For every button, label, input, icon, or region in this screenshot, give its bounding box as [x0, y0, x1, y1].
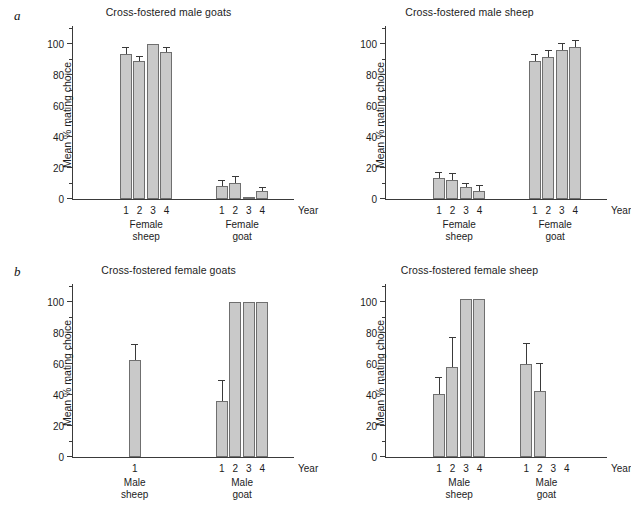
y-tick-major	[67, 43, 72, 44]
x-axis-line	[72, 199, 294, 200]
y-tick-major	[67, 136, 72, 137]
error-bar	[535, 55, 536, 61]
chart-title: Cross-fostered male sheep	[313, 6, 626, 18]
x-group-label-line: Female	[538, 219, 571, 231]
y-tick-minor	[69, 410, 72, 411]
y-tick-label: 20	[53, 163, 64, 174]
x-axis-title: Year	[611, 205, 631, 216]
y-tick-major	[380, 363, 385, 364]
y-tick-label: 60	[53, 359, 64, 370]
error-bar	[479, 186, 480, 191]
y-tick-label: 40	[366, 390, 377, 401]
y-tick-label: 100	[47, 39, 64, 50]
x-group-label: Femalesheep	[130, 219, 163, 243]
plot-area: Mean % mating choice0204060801001234Male…	[385, 288, 603, 458]
x-tick-label: 4	[164, 205, 170, 216]
y-tick-minor	[382, 348, 385, 349]
x-tick-label: 1	[132, 463, 138, 474]
y-tick-label: 100	[47, 297, 64, 308]
y-tick-minor	[382, 59, 385, 60]
error-bar	[562, 44, 563, 49]
x-group-label: Malegoat	[231, 477, 253, 501]
y-tick-major	[380, 456, 385, 457]
y-tick-label: 0	[371, 452, 377, 463]
bar	[529, 61, 541, 199]
x-group-label-line: Male	[536, 477, 558, 489]
y-tick-major	[380, 136, 385, 137]
error-bar	[526, 344, 527, 364]
x-axis-line	[72, 457, 294, 458]
y-tick-major	[380, 332, 385, 333]
bar	[256, 302, 268, 457]
error-bar-cap	[218, 180, 225, 181]
y-tick-minor	[69, 121, 72, 122]
x-tick-label: 2	[233, 205, 239, 216]
y-tick-label: 60	[53, 101, 64, 112]
y-tick-major	[380, 425, 385, 426]
y-tick-minor	[382, 90, 385, 91]
x-group-label-line: Female	[443, 219, 476, 231]
chart-title: Cross-fostered female goats	[0, 264, 313, 276]
bar	[216, 401, 228, 457]
x-tick-label: 2	[546, 205, 552, 216]
x-tick-label: 4	[477, 463, 483, 474]
x-group-label-line: sheep	[443, 231, 476, 243]
bar	[446, 180, 458, 199]
x-tick-label: 4	[573, 205, 579, 216]
y-tick-major	[380, 167, 385, 168]
bar	[129, 360, 141, 457]
y-tick-major	[380, 301, 385, 302]
bar	[473, 191, 485, 199]
y-tick-major	[67, 332, 72, 333]
y-tick-label: 0	[371, 194, 377, 205]
x-group-label: Femalegoat	[538, 219, 571, 243]
bar	[256, 191, 268, 199]
error-bar	[439, 378, 440, 393]
x-tick-label: 4	[477, 205, 483, 216]
error-bar	[575, 41, 576, 46]
bar	[556, 50, 568, 199]
x-tick-label: 1	[532, 205, 538, 216]
y-tick-major	[380, 198, 385, 199]
error-bar	[222, 381, 223, 401]
x-tick-label: 1	[219, 463, 225, 474]
chart-cross-fostered-female-sheep: Cross-fostered female sheep Mean % matin…	[313, 258, 626, 516]
x-tick-label: 1	[436, 463, 442, 474]
x-group-label: Malesheep	[121, 477, 148, 501]
bar	[460, 187, 472, 199]
y-tick-label: 0	[58, 194, 64, 205]
error-bar	[439, 173, 440, 178]
y-tick-minor	[382, 152, 385, 153]
panel-a: a Cross-fostered male goats Mean % matin…	[0, 0, 626, 260]
error-bar	[166, 48, 167, 52]
x-tick-label: 3	[463, 205, 469, 216]
bar	[569, 47, 581, 199]
x-axis-line	[385, 457, 607, 458]
x-tick-label: 3	[559, 205, 565, 216]
bar	[229, 183, 241, 199]
y-tick-major	[67, 394, 72, 395]
error-bar-cap	[545, 50, 552, 51]
x-tick-label: 4	[564, 463, 570, 474]
chart-title: Cross-fostered female sheep	[313, 264, 626, 276]
y-tick-major	[380, 394, 385, 395]
x-axis-title: Year	[611, 463, 631, 474]
y-tick-minor	[69, 90, 72, 91]
y-tick-minor	[382, 28, 385, 29]
y-tick-minor	[69, 348, 72, 349]
error-bar	[452, 174, 453, 180]
y-tick-major	[67, 74, 72, 75]
y-tick-major	[380, 43, 385, 44]
error-bar-cap	[259, 187, 266, 188]
x-tick-label: 2	[450, 463, 456, 474]
y-tick-label: 60	[366, 101, 377, 112]
x-tick-label: 2	[537, 463, 543, 474]
y-tick-label: 80	[366, 328, 377, 339]
x-tick-label: 4	[260, 463, 266, 474]
y-tick-major	[67, 105, 72, 106]
chart-title: Cross-fostered male goats	[0, 6, 313, 18]
error-bar-cap	[136, 56, 143, 57]
y-tick-label: 40	[53, 132, 64, 143]
y-tick-label: 80	[53, 328, 64, 339]
